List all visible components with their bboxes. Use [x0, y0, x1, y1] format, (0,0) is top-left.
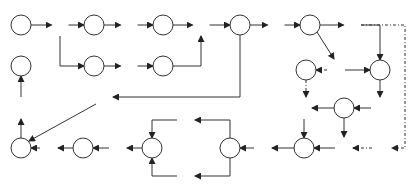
place-p16: [11, 56, 31, 76]
arc-Y-to-p15: [29, 104, 96, 141]
place-p5: [153, 56, 173, 76]
arc-G-to-p9: [361, 25, 380, 60]
place-p10: [334, 98, 354, 118]
place-p8: [296, 60, 316, 80]
place-p12: [220, 138, 240, 158]
place-p6: [230, 15, 250, 35]
arc-Q-to-p13: [152, 120, 177, 138]
place-p2: [84, 15, 104, 35]
arc-S-to-p13: [152, 158, 177, 176]
place-p13: [142, 138, 162, 158]
arc-p7-to-H: [317, 32, 334, 59]
place-p14: [73, 138, 93, 158]
place-p1: [11, 15, 31, 35]
arc-p5-to-E: [173, 36, 201, 66]
arc-p12-to-Q: [195, 120, 230, 138]
place-p4: [84, 56, 104, 76]
petri-net-diagram: [0, 0, 415, 190]
place-p7: [300, 15, 320, 35]
place-p3: [153, 15, 173, 35]
place-p11: [294, 138, 314, 158]
place-p9: [370, 60, 390, 80]
arc-p12-to-S: [195, 158, 230, 176]
place-p15: [11, 138, 31, 158]
arc-A-to-p4: [60, 36, 84, 66]
arc-G-to-p18: [361, 25, 405, 148]
